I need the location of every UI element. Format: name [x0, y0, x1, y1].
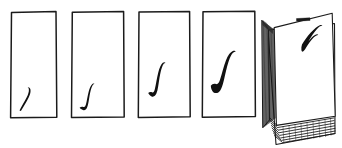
page-stack	[262, 13, 335, 144]
panel-3	[138, 11, 190, 117]
sketch-canvas	[0, 0, 342, 148]
panel-2-frame	[72, 12, 125, 118]
panel-3-frame	[138, 11, 190, 117]
dark-dash-mark	[296, 18, 310, 21]
stack-left-edge-hatching	[262, 21, 275, 128]
panel-2	[72, 12, 125, 118]
panel-4-frame	[202, 11, 255, 117]
stack-top-sheet	[274, 13, 335, 125]
panel-1-frame	[11, 12, 57, 118]
panel-1	[11, 12, 57, 118]
sketch-figure: Sequence of sketched page frames with gr…	[0, 0, 342, 148]
panel-4	[202, 11, 255, 117]
